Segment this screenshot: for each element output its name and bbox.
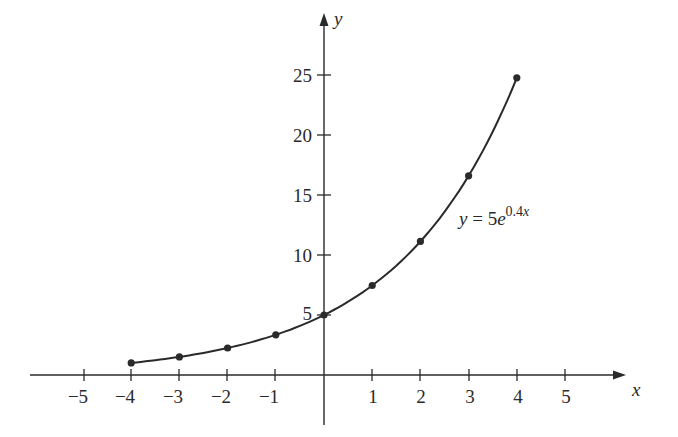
data-point [513,74,520,81]
x-tick-label: 2 [416,386,426,407]
x-tick-label: 3 [465,386,475,407]
y-tick-labels: 25 20 15 10 5 [293,65,312,324]
y-axis-label: y [332,8,343,29]
y-tick-label: 25 [293,65,312,86]
exponential-chart: −5 −4 −3 −2 −1 1 2 3 4 5 25 20 15 10 5 x… [0,0,678,437]
data-point [128,359,135,366]
x-tick-label: −2 [211,386,231,407]
data-point [272,331,279,338]
x-tick-label: −3 [163,386,183,407]
x-tick-label: 5 [561,386,571,407]
y-tick-label: 15 [293,185,312,206]
data-point [320,311,327,318]
x-tick-label: −5 [68,386,88,407]
x-tick-label: −1 [259,386,279,407]
data-point [417,238,424,245]
y-axis-arrow-icon [320,13,329,26]
equation-label: y = 5e0.4x [457,204,530,229]
y-tick-label: 10 [293,245,312,266]
x-tick-label: −4 [115,386,136,407]
x-axis-arrow-icon [613,371,626,380]
data-point [176,353,183,360]
x-tick-label: 1 [368,386,378,407]
x-axis-label: x [631,379,641,400]
x-tick-label: 4 [513,386,523,407]
data-point [224,344,231,351]
y-tick-label: 20 [293,125,312,146]
data-point [369,282,376,289]
data-point [465,172,472,179]
x-tick-labels: −5 −4 −3 −2 −1 1 2 3 4 5 [68,386,571,407]
